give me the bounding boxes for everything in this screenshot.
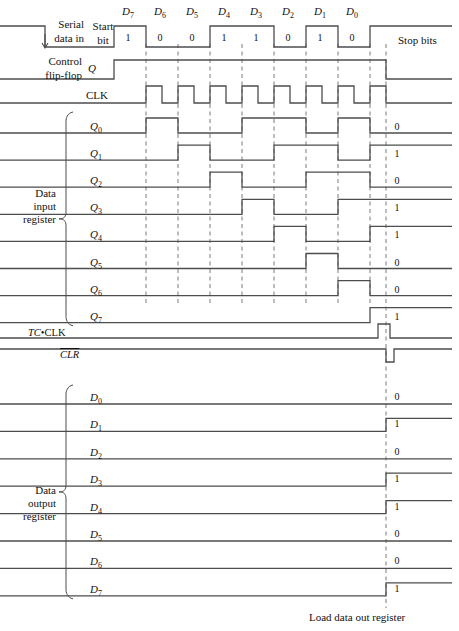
d-row-label-1: D1 (78, 419, 102, 434)
d-row-label-6: D6 (78, 556, 102, 571)
d-final-value-3: 1 (390, 474, 404, 484)
q-final-value-7: 1 (390, 312, 404, 322)
start-bit-label-line1: Start (88, 21, 118, 32)
d-waveform-1 (0, 418, 452, 431)
d-row-label-2: D2 (78, 447, 102, 462)
q-waveform-2 (0, 172, 452, 187)
serial-data-in-label-line2: data in (10, 33, 84, 44)
q-row-label-3: Q3 (78, 202, 102, 217)
q-final-value-3: 1 (390, 203, 404, 213)
q-final-value-2: 0 (390, 176, 404, 186)
q-waveform-5 (0, 254, 452, 269)
tc-clk-label: TC•CLK (28, 327, 66, 338)
q-row-label-4: Q4 (78, 229, 102, 244)
d-waveform-4 (0, 501, 452, 514)
q-waveform-3 (0, 199, 452, 214)
serial-bit-value-2: 0 (277, 33, 299, 43)
d-final-value-6: 0 (390, 556, 404, 566)
q-final-value-4: 1 (390, 230, 404, 240)
serial-bit-name-2: D2 (276, 6, 300, 21)
output-register-group-label-line2: output (0, 498, 56, 509)
serial-bit-name-6: D6 (148, 6, 172, 21)
output-register-group-label-line1: Data (0, 485, 56, 496)
q-final-value-6: 0 (390, 285, 404, 295)
control-flipflop-label-line2: flip-flop (4, 70, 82, 81)
control-flipflop-label-line1: Control (4, 56, 82, 67)
start-bit-label-line2: bit (88, 35, 118, 46)
q-final-value-0: 0 (390, 122, 404, 132)
input-register-group-label-line2: input (0, 201, 56, 212)
q-final-value-1: 1 (390, 149, 404, 159)
load-data-out-caption: Load data out register (309, 612, 405, 623)
tc-clk-label-tc: TC (28, 327, 41, 338)
serial-bit-value-6: 0 (149, 33, 171, 43)
d-row-label-3: D3 (78, 474, 102, 489)
output-register-group-label-line3: register (0, 511, 56, 522)
q-row-label-6: Q6 (78, 284, 102, 299)
q-row-label-1: Q1 (78, 148, 102, 163)
q-row-label-0: Q0 (78, 121, 102, 136)
q-final-value-5: 0 (390, 258, 404, 268)
serial-bit-value-3: 1 (245, 33, 267, 43)
q-row-label-7: Q7 (78, 311, 102, 326)
serial-bit-name-3: D3 (244, 6, 268, 21)
serial-bit-name-5: D5 (180, 6, 204, 21)
timing-diagram: Serial data in Start bit Stop bits Contr… (0, 0, 459, 631)
input-register-brace (59, 112, 73, 326)
q-waveform-7 (0, 308, 452, 323)
d-row-label-4: D4 (78, 502, 102, 517)
control-flipflop-q-label: Q (88, 63, 96, 74)
serial-bit-name-0: D0 (340, 6, 364, 21)
serial-bit-name-7: D7 (116, 6, 140, 21)
serial-bit-value-0: 0 (341, 33, 363, 43)
d-final-value-1: 1 (390, 419, 404, 429)
tc-clk-waveform (0, 324, 452, 338)
clk-label: CLK (40, 90, 108, 101)
d-final-value-0: 0 (390, 392, 404, 402)
d-waveform-7 (0, 583, 452, 596)
serial-bit-value-7: 1 (117, 33, 139, 43)
serial-bit-name-1: D1 (308, 6, 332, 21)
output-register-brace (59, 385, 73, 599)
d-waveform-3 (0, 473, 452, 486)
serial-bit-name-4: D4 (212, 6, 236, 21)
d-final-value-7: 1 (390, 584, 404, 594)
input-register-group-label-line3: register (0, 214, 56, 225)
q-waveform-1 (0, 145, 452, 160)
serial-bit-value-5: 0 (181, 33, 203, 43)
clr-label-text: CLR (60, 349, 79, 360)
q-row-label-2: Q2 (78, 175, 102, 190)
input-register-group-label-line1: Data (0, 188, 56, 199)
serial-bit-value-4: 1 (213, 33, 235, 43)
d-row-label-0: D0 (78, 392, 102, 407)
stop-bits-label: Stop bits (398, 35, 437, 46)
q-waveform-0 (0, 118, 452, 133)
serial-bit-value-1: 1 (309, 33, 331, 43)
q-waveform-4 (0, 226, 452, 241)
q-row-label-5: Q5 (78, 257, 102, 272)
clr-label: CLR (60, 349, 79, 360)
d-final-value-2: 0 (390, 447, 404, 457)
q-waveform-6 (0, 281, 452, 296)
d-row-label-5: D5 (78, 529, 102, 544)
d-final-value-4: 1 (390, 502, 404, 512)
d-row-label-7: D7 (78, 584, 102, 599)
d-final-value-5: 0 (390, 529, 404, 539)
tc-clk-label-clk: CLK (45, 327, 66, 338)
serial-data-in-label-line1: Serial (10, 19, 84, 30)
